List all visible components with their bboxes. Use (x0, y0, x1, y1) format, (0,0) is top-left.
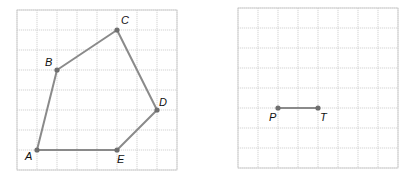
geometry-figure: ABCDE PT (0, 0, 414, 176)
point-a (34, 147, 39, 152)
point-label-c: C (121, 14, 129, 26)
point-c (114, 27, 119, 32)
point-label-d: D (159, 96, 167, 108)
point-t (315, 105, 320, 110)
segment-grid: PT (238, 8, 398, 168)
point-label-e: E (117, 153, 125, 165)
point-b (54, 67, 59, 72)
point-label-p: P (269, 111, 277, 123)
grid-left (17, 10, 177, 170)
point-e (114, 147, 119, 152)
grid-right (238, 8, 398, 168)
point-d (154, 107, 159, 112)
point-p (275, 105, 280, 110)
pentagon-grid: ABCDE (17, 10, 177, 170)
point-label-t: T (320, 111, 328, 123)
point-label-b: B (45, 56, 52, 68)
point-label-a: A (24, 150, 32, 162)
